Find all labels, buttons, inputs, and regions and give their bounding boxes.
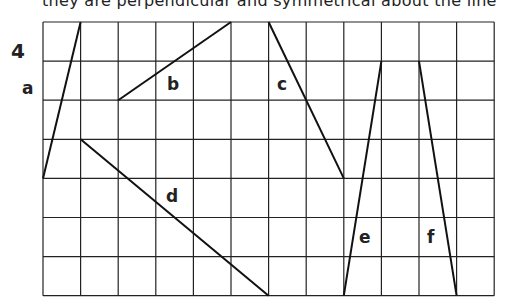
square-grid <box>0 0 507 298</box>
segment-label-c: c <box>277 74 287 94</box>
segment-label-f: f <box>427 227 434 247</box>
segment-label-a: a <box>22 78 33 98</box>
segment-label-b: b <box>167 74 179 94</box>
segment-label-e: e <box>359 227 371 247</box>
segment-label-d: d <box>166 186 178 206</box>
